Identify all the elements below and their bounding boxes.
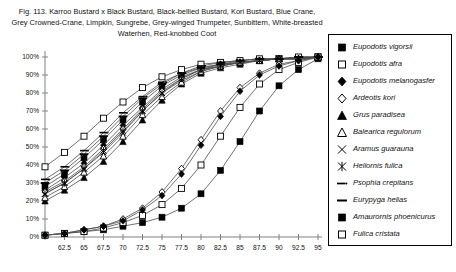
legend-marker-filled-triangle-icon bbox=[335, 108, 351, 122]
y-tick-label: 70% bbox=[26, 107, 39, 114]
x-tick-label: 92.5 bbox=[292, 244, 305, 251]
marker-filled-square bbox=[179, 205, 185, 211]
legend-item[interactable]: Eupodotis melanogasfer bbox=[329, 72, 451, 89]
marker-open-square bbox=[179, 67, 185, 73]
y-tick-label: 20% bbox=[26, 197, 39, 204]
y-tick-label: 90% bbox=[26, 71, 39, 78]
marker-open-square bbox=[159, 74, 165, 80]
y-tick-label: 50% bbox=[26, 143, 39, 150]
marker-filled-square bbox=[296, 67, 302, 73]
figure-title-line-3: Waterhen, Red-knobbed Coot bbox=[8, 28, 326, 39]
legend-item-label: Eupodotis vigorsii bbox=[353, 42, 413, 51]
legend-marker-open-diamond-icon bbox=[335, 91, 351, 105]
marker-filled-square bbox=[218, 167, 224, 173]
legend-item-label: Eupodotis afra bbox=[353, 59, 402, 68]
legend-item-label: Psophia crepitans bbox=[353, 178, 413, 187]
legend-marker-x-cross-icon bbox=[335, 142, 351, 156]
legend-marker-open-triangle-icon bbox=[335, 125, 351, 139]
figure-title: Fig. 113. Karroo Bustard x Black Bustard… bbox=[8, 6, 326, 39]
legend-item-label: Balearica regulorum bbox=[353, 127, 421, 136]
marker-asterisk bbox=[42, 190, 48, 197]
x-tick-label: 85 bbox=[236, 244, 244, 251]
marker-filled-square bbox=[276, 83, 282, 89]
x-tick-label: 65 bbox=[80, 244, 88, 251]
y-tick-label: 40% bbox=[26, 161, 39, 168]
x-tick-label: 95 bbox=[314, 244, 322, 251]
legend-item[interactable]: Eupodotis vigorsii bbox=[329, 38, 451, 55]
legend-item-label: Aramus guarauna bbox=[353, 144, 413, 153]
figure-title-line-2: Grey Crowned-Crane, Limpkin, Sungrebe, G… bbox=[8, 17, 326, 28]
legend-marker-open-square-icon bbox=[335, 57, 351, 71]
marker-filled-square bbox=[237, 139, 243, 145]
marker-open-square bbox=[120, 99, 126, 105]
legend-item[interactable]: Aramus guarauna bbox=[329, 140, 451, 157]
chart-legend: Eupodotis vigorsiiEupodotis afraEupodoti… bbox=[328, 34, 452, 246]
y-tick-label: 30% bbox=[26, 179, 39, 186]
legend-marker-filled-square-icon bbox=[335, 210, 351, 224]
legend-item[interactable]: Heliornis fulica bbox=[329, 157, 451, 174]
marker-open-square bbox=[62, 149, 68, 155]
legend-marker-dash-dot-icon bbox=[335, 176, 351, 190]
marker-open-square bbox=[257, 81, 263, 87]
legend-item[interactable]: Psophia crepitans bbox=[329, 174, 451, 191]
legend-item[interactable]: Ardeotis kori bbox=[329, 89, 451, 106]
marker-open-square bbox=[198, 162, 204, 168]
y-tick-label: 80% bbox=[26, 89, 39, 96]
legend-marker-filled-diamond-icon bbox=[335, 74, 351, 88]
marker-filled-square bbox=[257, 108, 263, 114]
marker-open-square bbox=[237, 104, 243, 110]
y-tick-label: 60% bbox=[26, 125, 39, 132]
legend-item-label: Eurypyga helias bbox=[353, 195, 407, 204]
legend-item[interactable]: Eurypyga helias bbox=[329, 191, 451, 208]
y-tick-label: 0% bbox=[29, 233, 39, 240]
legend-marker-filled-square-icon bbox=[335, 40, 351, 54]
legend-item-label: Amaurornis phoenicurus bbox=[353, 212, 435, 221]
legend-marker-open-square-icon bbox=[335, 227, 351, 241]
x-tick-label: 67.5 bbox=[97, 244, 110, 251]
y-tick-label: 100% bbox=[22, 53, 39, 60]
chart-plot-area: 0%10%20%30%40%50%60%70%80%90%100%62.5656… bbox=[0, 44, 330, 272]
marker-filled-square bbox=[198, 191, 204, 197]
marker-filled-square bbox=[159, 214, 165, 220]
x-tick-label: 82.5 bbox=[214, 244, 227, 251]
y-tick-label: 10% bbox=[26, 215, 39, 222]
x-tick-label: 72.5 bbox=[136, 244, 149, 251]
legend-item[interactable]: Fulica cristata bbox=[329, 225, 451, 242]
marker-asterisk bbox=[62, 180, 68, 187]
series-group bbox=[41, 53, 323, 238]
x-tick-label: 77.5 bbox=[175, 244, 188, 251]
legend-item[interactable]: Grus paradisea bbox=[329, 106, 451, 123]
marker-open-square bbox=[81, 133, 87, 139]
x-tick-label: 62.5 bbox=[58, 244, 71, 251]
marker-open-square bbox=[140, 85, 146, 91]
figure-page: Fig. 113. Karroo Bustard x Black Bustard… bbox=[0, 0, 456, 272]
legend-item[interactable]: Balearica regulorum bbox=[329, 123, 451, 140]
legend-item-label: Fulica cristata bbox=[353, 229, 400, 238]
legend-item[interactable]: Eupodotis afra bbox=[329, 55, 451, 72]
marker-open-square bbox=[218, 133, 224, 139]
marker-filled-square bbox=[140, 220, 146, 226]
x-tick-label: 90 bbox=[275, 244, 283, 251]
legend-item-label: Ardeotis kori bbox=[353, 93, 395, 102]
legend-item[interactable]: Amaurornis phoenicurus bbox=[329, 208, 451, 225]
marker-open-square bbox=[179, 185, 185, 191]
x-tick-label: 87.5 bbox=[253, 244, 266, 251]
marker-open-square bbox=[101, 115, 107, 121]
x-tick-label: 70 bbox=[119, 244, 127, 251]
marker-open-square bbox=[42, 164, 48, 170]
legend-item-label: Eupodotis melanogasfer bbox=[353, 76, 435, 85]
legend-item-label: Heliornis fulica bbox=[353, 161, 402, 170]
marker-open-square bbox=[159, 202, 165, 208]
figure-title-line-1: Fig. 113. Karroo Bustard x Black Bustard… bbox=[8, 6, 326, 17]
legend-marker-asterisk-icon bbox=[335, 159, 351, 173]
x-tick-label: 75 bbox=[158, 244, 166, 251]
x-tick-label: 80 bbox=[197, 244, 205, 251]
legend-item-label: Grus paradisea bbox=[353, 110, 405, 119]
legend-marker-dash-icon bbox=[335, 193, 351, 207]
